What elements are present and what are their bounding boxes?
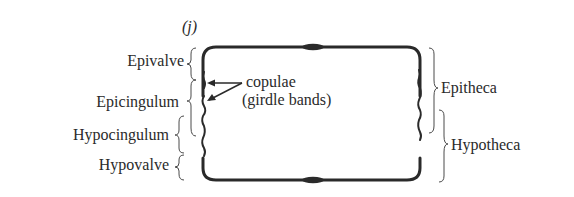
- label-epitheca: Epitheca: [441, 79, 497, 97]
- label-girdle-bands: (girdle bands): [242, 91, 331, 109]
- brace-epitheca: [429, 48, 438, 133]
- brace-hypocingulum: [175, 116, 184, 153]
- label-copulae: copulae: [246, 73, 296, 91]
- label-epivalve: Epivalve: [127, 52, 184, 70]
- epivalve-outline: [203, 47, 420, 96]
- brace-epivalve: [187, 48, 196, 80]
- panel-label: (j): [182, 18, 197, 36]
- label-hypotheca: Hypotheca: [451, 136, 520, 154]
- brace-hypotheca: [439, 110, 448, 182]
- label-hypocingulum: Hypocingulum: [73, 126, 169, 144]
- brace-hypovalve: [175, 155, 184, 180]
- arrowhead-upper: [207, 80, 215, 87]
- label-hypovalve: Hypovalve: [99, 156, 169, 174]
- hypovalve-outline: [203, 158, 420, 180]
- brace-epicingulum: [187, 80, 196, 136]
- label-epicingulum: Epicingulum: [96, 93, 179, 111]
- diatom-frustule-diagram: (j) Epivalve Epicingulum Hypocingulum Hy…: [0, 0, 574, 197]
- top-nodule: [302, 44, 324, 50]
- bottom-nodule: [302, 177, 324, 183]
